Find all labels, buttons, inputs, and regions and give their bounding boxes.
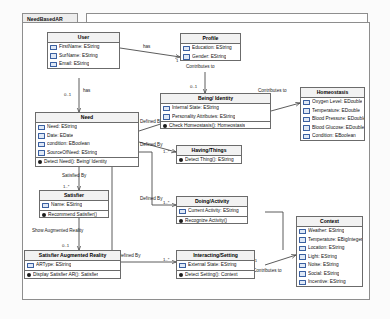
attribute-label: Email: EString [59, 60, 89, 69]
class-box-context[interactable]: Context Weather: EString Temperature: EB… [296, 216, 363, 287]
class-box-being-identity[interactable]: Being/ Identity Internal State: EString … [160, 93, 271, 129]
class-operations-doing-activity: Recognize Activity() [177, 216, 247, 226]
mult-user-need-source: 0..1 [64, 92, 71, 97]
attribute-row[interactable]: condition: EBoolean [36, 140, 138, 149]
attribute-row[interactable]: Social: EString [297, 270, 362, 279]
attribute-row[interactable]: Current Activity: EString [177, 207, 247, 216]
attribute-icon [299, 263, 306, 269]
class-operations-interacting-setting: Detect Setting(): Context [177, 270, 254, 280]
attribute-label: Weather: EString [308, 227, 344, 236]
class-box-homeostasis[interactable]: Homeostasis Oxygen Level: EDouble Temper… [300, 87, 365, 141]
edge-label-user-profile: has [143, 44, 150, 50]
mult-need-having-target: 1..* [163, 149, 169, 154]
attribute-icon [42, 203, 49, 209]
attribute-icon [179, 263, 186, 269]
attribute-label: condition: EBoolean [47, 140, 90, 149]
edge-label-interacting-context: Contributes to [253, 268, 282, 274]
operation-row[interactable]: Display Satisfier AR(): Satisfier [25, 271, 120, 280]
class-title-user: User [48, 33, 119, 43]
class-box-doing-activity[interactable]: Doing/Activity Current Activity: EString… [176, 196, 248, 224]
class-attributes-satisfier: Name: EString [40, 201, 108, 210]
attribute-row[interactable]: External State: EString [177, 261, 254, 270]
attribute-row[interactable]: Condition: EBoolean [301, 132, 364, 141]
class-title-satisfier: Satisfier [40, 191, 108, 201]
class-title-context: Context [297, 217, 362, 227]
attribute-row[interactable]: Date: EDate [36, 132, 138, 141]
attribute-row[interactable]: Need: EString [36, 123, 138, 132]
attribute-row[interactable]: Blood Glucose: EDouble [301, 124, 364, 133]
edge-label-satisfier-ar: Show Augmented Reality [32, 228, 83, 234]
class-box-profile[interactable]: Profile Education: EString Gender: EStri… [180, 33, 241, 61]
operation-label: Detect Setting(): Context [185, 271, 238, 280]
attribute-row[interactable]: SurName: EString [48, 52, 119, 61]
attribute-row[interactable]: ARType: EString [25, 261, 120, 270]
operation-row[interactable]: Detect Need(): Being/ Identity [36, 158, 138, 167]
class-title-profile: Profile [181, 34, 240, 44]
attribute-row[interactable]: Temperature: EDouble [301, 107, 364, 116]
attribute-label: Temperature: EDouble [312, 107, 360, 116]
attribute-row[interactable]: FirstName: EString [48, 43, 119, 52]
class-title-satisfier-ar: Satisfier Augmented Reality [25, 251, 120, 261]
operation-icon [42, 213, 46, 217]
class-title-interacting-setting: Interacting/Setting [177, 251, 254, 261]
operation-row[interactable]: Recommend Satisfier() [40, 211, 108, 220]
operation-label: Recognize Activity() [185, 217, 227, 226]
edge-label-need-doing: Defined By [140, 196, 162, 202]
class-box-satisfier-ar[interactable]: Satisfier Augmented Reality ARType: EStr… [24, 250, 121, 279]
attribute-row[interactable]: Oxygen Level: EDouble [301, 98, 364, 107]
attribute-row[interactable]: Light: EString [297, 253, 362, 262]
class-title-homeostasis: Homeostasis [301, 88, 364, 98]
class-box-interacting-setting[interactable]: Interacting/Setting External State: EStr… [176, 250, 255, 279]
attribute-row[interactable]: SourceOfNeed: EString [36, 149, 138, 158]
attribute-row[interactable]: Name: EString [40, 201, 108, 210]
attribute-icon [50, 45, 57, 51]
attribute-row[interactable]: Email: EString [48, 60, 119, 69]
attribute-icon [50, 62, 57, 68]
attribute-label: Blood Glucose: EDouble [312, 124, 364, 133]
attribute-row[interactable]: Education: EString [181, 44, 240, 53]
class-attributes-being-identity: Internal State: EString Personality Attr… [161, 104, 270, 121]
operation-icon [179, 158, 183, 162]
attribute-icon [299, 271, 306, 277]
attribute-row[interactable]: Incentive: EString [297, 278, 362, 287]
operation-row[interactable]: Recognize Activity() [177, 217, 247, 226]
attribute-label: Blood Pressure: EDouble [312, 115, 364, 124]
class-attributes-satisfier-ar: ARType: EString [25, 261, 120, 270]
operation-row[interactable]: Detect Setting(): Context [177, 271, 254, 280]
attribute-row[interactable]: Location: EString [297, 244, 362, 253]
mult-satisfier-ar-target: 0..1 [62, 243, 69, 248]
class-box-user[interactable]: User FirstName: EString SurName: EString… [47, 32, 120, 69]
class-box-satisfier[interactable]: Satisfier Name: EString Recommend Satisf… [39, 190, 109, 218]
class-box-having-things[interactable]: Having/Things Detect Thing(): EString [176, 145, 242, 164]
class-attributes-homeostasis: Oxygen Level: EDouble Temperature: EDoub… [301, 98, 364, 141]
attribute-label: Need: EString [47, 123, 77, 132]
class-box-need[interactable]: Need Need: EString Date: EDate condition… [35, 112, 139, 167]
operation-icon [38, 160, 42, 164]
attribute-label: Location: EString [308, 244, 345, 253]
operation-row[interactable]: Detect Thing(): EString [177, 156, 241, 165]
attribute-label: Temperature: EBigInteger [308, 236, 362, 245]
attribute-row[interactable]: Gender: EString [181, 53, 240, 62]
attribute-label: Internal State: EString [172, 104, 219, 113]
attribute-label: Current Activity: EString [188, 207, 239, 216]
attribute-row[interactable]: Personality Attributes: EString [161, 113, 270, 122]
attribute-icon [299, 280, 306, 286]
edge-label-need-having: Defined By [140, 142, 162, 148]
attribute-label: Noise: EString [308, 261, 339, 270]
operation-icon [27, 273, 31, 277]
operation-label: Detect Thing(): EString [185, 156, 234, 165]
operation-label: Detect Need(): Being/ Identity [44, 158, 107, 167]
attribute-icon [27, 263, 34, 269]
edge-label-need-interacting: Defined By [118, 253, 140, 259]
operation-label: Recommend Satisfier() [48, 211, 97, 220]
attribute-row[interactable]: Weather: EString [297, 227, 362, 236]
operation-row[interactable]: Check Homeostasis(): Homeostasis [161, 122, 270, 131]
attribute-row[interactable]: Noise: EString [297, 261, 362, 270]
class-attributes-doing-activity: Current Activity: EString [177, 207, 247, 216]
attribute-row[interactable]: Temperature: EBigInteger [297, 236, 362, 245]
attribute-row[interactable]: Blood Pressure: EDouble [301, 115, 364, 124]
attribute-icon [38, 150, 45, 156]
attribute-row[interactable]: Internal State: EString [161, 104, 270, 113]
attribute-label: Education: EString [192, 44, 232, 53]
attribute-icon [299, 246, 306, 252]
